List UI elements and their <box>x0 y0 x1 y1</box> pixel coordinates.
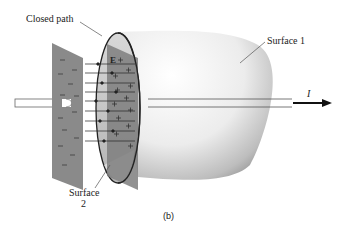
field-label: E <box>110 55 116 66</box>
closed-path-leader <box>80 22 102 36</box>
surface-1 <box>118 31 273 180</box>
current-label: I <box>307 88 310 99</box>
surface-2-label: Surface <box>69 187 100 198</box>
surface-1-label: Surface 1 <box>267 35 305 46</box>
negative-plate <box>52 43 83 190</box>
figure-caption: (b) <box>163 211 174 222</box>
surface2-leader <box>95 165 110 188</box>
surface-2-number: 2 <box>81 198 86 209</box>
closed-path-label: Closed path <box>26 13 74 24</box>
